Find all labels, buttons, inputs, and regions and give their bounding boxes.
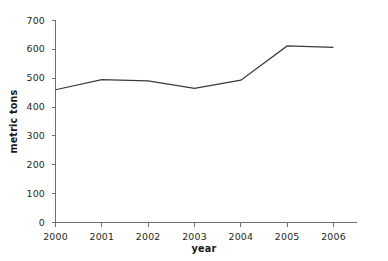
y-tick-label: 0 [11,217,45,228]
y-tick-label: 100 [11,188,45,199]
chart-canvas [0,0,388,261]
axes-group [56,20,358,223]
y-tick-label: 600 [11,43,45,54]
x-tick-label: 2002 [128,231,168,242]
series-line-metric-tons [56,46,334,90]
y-axis-title: metric tons [8,87,19,157]
x-tick-label: 2006 [314,231,354,242]
line-chart: 0100200300400500600700 20002001200220032… [0,0,388,261]
x-tick-label: 2005 [267,231,307,242]
x-axis-title: year [174,243,234,254]
y-tick-label: 200 [11,159,45,170]
x-tick-label: 2000 [36,231,76,242]
x-tick-label: 2004 [221,231,261,242]
x-tick-label: 2001 [82,231,122,242]
y-tick-label: 500 [11,72,45,83]
x-tick-marks [56,223,334,227]
data-series-group [56,46,334,90]
y-tick-label: 700 [11,15,45,26]
x-tick-label: 2003 [175,231,215,242]
